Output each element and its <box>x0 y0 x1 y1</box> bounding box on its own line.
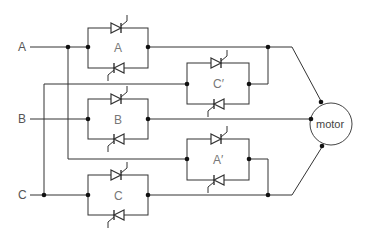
circuit-diagram: A B C A C′ B A′ <box>0 0 373 240</box>
block-label-b: B <box>114 113 122 127</box>
motor-label: motor <box>316 118 344 130</box>
thyristor-block-a-prime: A′ <box>187 126 249 193</box>
input-label-c: C <box>18 188 27 202</box>
thyristor-icon <box>108 134 124 152</box>
thyristor-block-c-prime: C′ <box>187 50 249 117</box>
motor: motor <box>310 103 352 145</box>
thyristor-icon <box>108 210 124 228</box>
thyristor-icon <box>211 126 227 144</box>
thyristor-icon <box>111 15 127 33</box>
thyristor-icon <box>111 86 127 104</box>
block-label-c: C <box>114 189 123 203</box>
thyristor-icon <box>108 63 124 81</box>
block-label-c-prime: C′ <box>213 77 225 91</box>
wire-output-top <box>148 47 321 101</box>
thyristor-block-a: A <box>88 15 148 81</box>
input-label-a: A <box>18 40 26 54</box>
junction-dots <box>42 45 325 198</box>
thyristor-icon <box>208 99 224 117</box>
thyristor-icon <box>111 162 127 180</box>
block-label-a-prime: A′ <box>213 153 224 167</box>
thyristor-block-b: B <box>88 86 148 152</box>
wire-input-a <box>30 47 187 159</box>
thyristor-icon <box>211 50 227 68</box>
input-label-b: B <box>18 112 26 126</box>
thyristor-icon <box>208 175 224 193</box>
wire-output-bottom <box>148 147 322 195</box>
thyristor-block-c: C <box>88 162 148 228</box>
block-label-a: A <box>114 41 122 55</box>
